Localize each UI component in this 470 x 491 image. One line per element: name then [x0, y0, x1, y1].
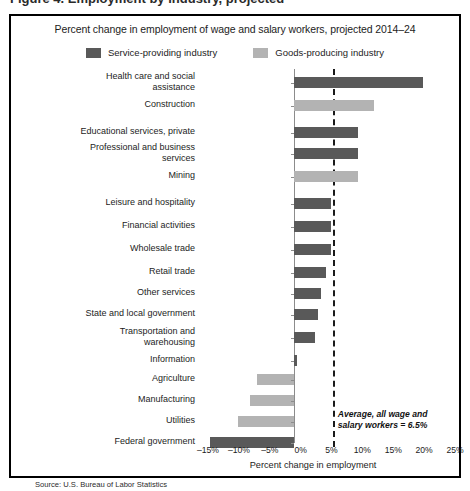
- x-tick-label: –15%: [197, 445, 219, 455]
- legend-label-service-providing: Service-providing industry: [108, 47, 217, 58]
- chart-title: Percent change in employment of wage and…: [11, 23, 459, 35]
- category-label: Retail trade: [149, 266, 195, 277]
- bar: [294, 100, 374, 111]
- category-label: Information: [150, 354, 195, 365]
- bar: [294, 148, 359, 159]
- category-label: Agriculture: [152, 373, 195, 384]
- category-label: Educational services, private: [80, 126, 195, 137]
- category-label: Utilities: [166, 415, 195, 426]
- category-tick: [291, 361, 294, 362]
- bar: [238, 416, 294, 427]
- x-tick-label: 20%: [416, 445, 433, 455]
- x-tick-label: 10%: [354, 445, 371, 455]
- category-tick: [291, 401, 294, 402]
- category-tick: [291, 273, 294, 274]
- x-tick-label: –10%: [228, 445, 250, 455]
- category-label: Transportation and warehousing: [120, 326, 195, 347]
- category-tick: [291, 227, 294, 228]
- legend-label-goods-producing: Goods-producing industry: [275, 47, 384, 58]
- bar: [294, 127, 359, 138]
- category-tick: [291, 133, 294, 134]
- category-tick: [291, 106, 294, 107]
- category-tick: [291, 315, 294, 316]
- average-reference-line: [333, 69, 337, 447]
- figure-frame: Percent change in employment of wage and…: [9, 14, 461, 478]
- bar: [294, 198, 332, 209]
- x-tick-label: 25%: [446, 445, 463, 455]
- category-label: Wholesale trade: [130, 243, 195, 254]
- category-tick: [291, 83, 294, 84]
- average-annotation-text: Average, all wage and salary workers = 6…: [338, 409, 448, 430]
- category-label: Manufacturing: [138, 394, 195, 405]
- clipped-figure-header-text: Figure 4. Employment by industry, projec…: [10, 0, 284, 6]
- category-tick: [291, 154, 294, 155]
- source-note: Source: U.S. Bureau of Labor Statistics: [35, 480, 167, 489]
- plot-canvas: Average, all wage and salary workers = 6…: [201, 69, 448, 443]
- x-tick-label: 5%: [325, 445, 337, 455]
- legend-item-service-providing: Service-providing industry: [86, 47, 217, 58]
- bar: [294, 332, 315, 343]
- category-label: Construction: [144, 99, 195, 110]
- zero-axis-line: [294, 69, 295, 443]
- category-tick: [291, 338, 294, 339]
- category-tick: [291, 250, 294, 251]
- bar: [294, 267, 326, 278]
- plot-area: Health care and social assistanceConstru…: [24, 69, 448, 443]
- bar: [294, 244, 332, 255]
- category-label: Other services: [137, 287, 195, 298]
- category-label: Health care and social assistance: [106, 71, 195, 92]
- legend-item-goods-producing: Goods-producing industry: [253, 47, 384, 58]
- bar: [294, 288, 321, 299]
- category-label: Financial activities: [122, 220, 195, 231]
- category-label: State and local government: [85, 308, 195, 319]
- category-tick: [291, 422, 294, 423]
- bar: [294, 77, 424, 88]
- legend-swatch-service-providing: [86, 48, 101, 58]
- category-label: Leisure and hospitality: [105, 197, 195, 208]
- category-tick: [291, 380, 294, 381]
- category-tick: [291, 443, 294, 444]
- clipped-figure-header: Figure 4. Employment by industry, projec…: [0, 0, 470, 10]
- category-axis-labels: Health care and social assistanceConstru…: [24, 69, 200, 443]
- bar: [250, 395, 293, 406]
- x-axis-tick-labels: –15%–10%–5%0%5%10%15%20%25%: [201, 445, 463, 461]
- chart-legend: Service-providing industry Goods-produci…: [11, 47, 459, 58]
- bar: [294, 355, 298, 366]
- x-tick-label: 15%: [385, 445, 402, 455]
- legend-swatch-goods-producing: [253, 48, 268, 58]
- category-label: Mining: [168, 170, 195, 181]
- category-tick: [291, 294, 294, 295]
- bar: [294, 221, 332, 232]
- bar: [257, 374, 294, 385]
- bar: [294, 171, 359, 182]
- bar: [294, 309, 318, 320]
- x-axis-title: Percent change in employment: [188, 460, 438, 470]
- x-tick-label: 0%: [294, 445, 306, 455]
- category-label: Professional and business services: [90, 142, 195, 163]
- category-tick: [291, 177, 294, 178]
- category-tick: [291, 204, 294, 205]
- category-label: Federal government: [114, 436, 195, 447]
- x-tick-label: –5%: [261, 445, 278, 455]
